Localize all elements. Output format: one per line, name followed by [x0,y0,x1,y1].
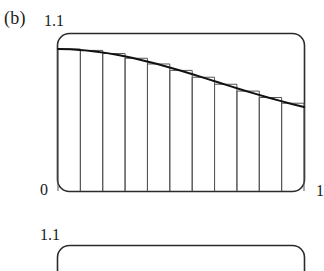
bar-outline [125,58,147,191]
bar-outline [147,64,169,191]
bar-outline [58,49,80,191]
bar-outline [215,84,237,191]
figure-panel-b: (b) 1.1 0 1 1.1 [0,0,324,271]
bar-outline [259,98,281,191]
smooth-curve [58,49,304,107]
bar-outline [237,91,259,191]
plot-canvas [0,0,324,271]
bar-outline [192,77,214,191]
bar-outline [80,50,102,191]
bottom-panel-frame [58,246,305,271]
bar-outline [103,54,125,191]
top-panel-frame [58,34,305,192]
bar-outline [170,70,192,191]
bar-outline [282,103,304,191]
